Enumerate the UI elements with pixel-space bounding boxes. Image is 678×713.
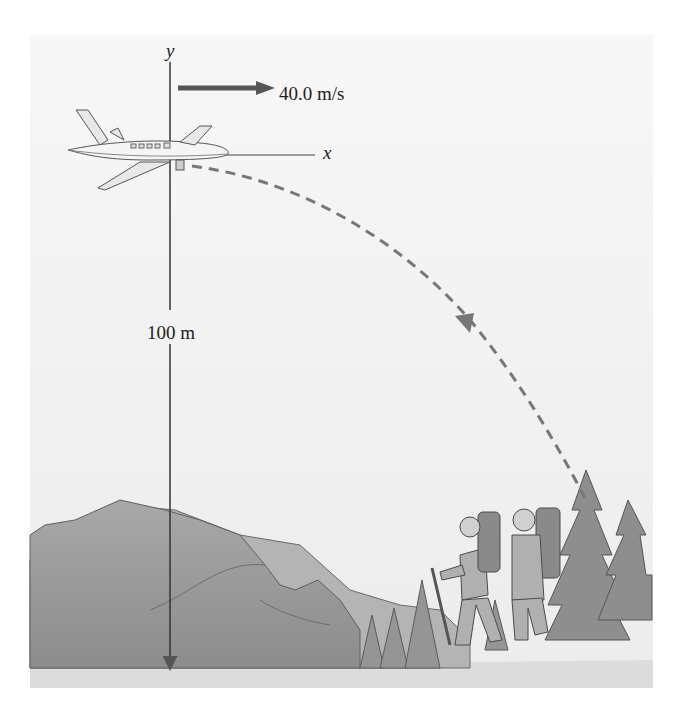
height-label: 100 m: [145, 322, 197, 344]
projectile-diagram: y x 40.0 m/s 100 m: [0, 0, 678, 713]
y-axis-label: y: [166, 40, 174, 62]
velocity-label: 40.0 m/s: [279, 83, 344, 105]
x-axis-label: x: [323, 142, 331, 164]
